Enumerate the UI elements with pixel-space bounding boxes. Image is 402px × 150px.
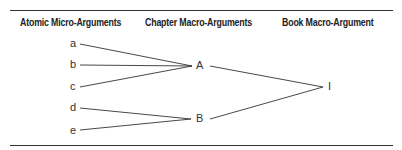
edge-A-I — [210, 66, 323, 87]
node-e: e — [70, 124, 76, 136]
node-d: d — [70, 101, 76, 113]
edge-B-I — [210, 87, 323, 119]
edge-d-B — [80, 108, 191, 119]
edge-c-A — [80, 66, 192, 87]
edge-e-B — [80, 119, 191, 130]
node-A: A — [196, 59, 203, 71]
edge-b-A — [80, 65, 192, 66]
argument-links — [0, 0, 402, 150]
bottom-rule — [10, 145, 393, 146]
edge-a-A — [80, 44, 192, 66]
node-I: I — [328, 80, 331, 92]
node-b: b — [70, 58, 76, 70]
node-c: c — [70, 80, 76, 92]
node-a: a — [70, 37, 76, 49]
node-B: B — [196, 112, 203, 124]
